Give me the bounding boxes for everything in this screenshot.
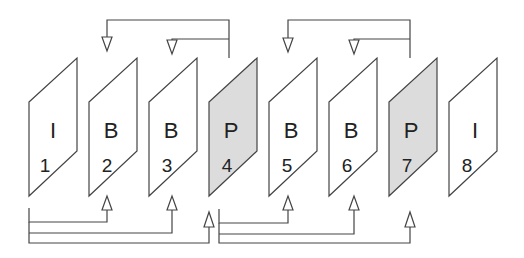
frame-type-label: I [472, 118, 478, 143]
ref-line-4-to-5 [219, 209, 288, 223]
ref-line-1-to-2 [29, 208, 107, 222]
frame-type-label: B [284, 118, 299, 143]
arrowhead-up-icon [102, 196, 112, 210]
arrowhead-down-icon [102, 37, 112, 51]
frame-number-label: 3 [162, 155, 173, 176]
arrowhead-up-icon [349, 196, 359, 210]
frame-4: P 4 [209, 58, 257, 196]
arrowhead-down-icon [349, 40, 359, 54]
frame-type-label: B [104, 118, 119, 143]
frame-number-label: 7 [402, 155, 413, 176]
frame-number-label: 4 [222, 155, 233, 176]
ref-line-4-to-6 [219, 210, 354, 234]
ref-line-4-to-7 [219, 223, 410, 243]
frame-number-label: 8 [462, 155, 473, 176]
arrowhead-up-icon [167, 196, 177, 210]
frame-7: P 7 [389, 58, 437, 196]
arrowhead-down-icon [283, 38, 293, 52]
frame-type-label: I [50, 118, 56, 143]
ref-line-4-to-3 [172, 39, 229, 40]
top-arrows-group-1 [102, 20, 229, 58]
frame-number-label: 6 [342, 155, 353, 176]
frame-6: B 6 [329, 58, 377, 196]
frame-type-label: P [404, 118, 419, 143]
frame-8: I 8 [449, 58, 497, 196]
ref-line-7-to-6 [354, 39, 410, 40]
frame-5: B 5 [269, 58, 317, 196]
frame-1: I 1 [29, 58, 77, 196]
arrowhead-up-icon [283, 196, 293, 210]
frame-type-label: B [344, 118, 359, 143]
bottom-arrows-group-2 [219, 196, 415, 243]
arrowhead-up-icon [204, 212, 214, 227]
frame-number-label: 5 [282, 155, 293, 176]
arrowhead-down-icon [167, 40, 177, 54]
arrowhead-up-icon [405, 212, 415, 227]
bottom-arrows-group-1 [29, 196, 214, 243]
frame-type-label: P [224, 118, 239, 143]
frame-2: B 2 [89, 58, 137, 196]
frame-number-label: 1 [40, 155, 51, 176]
frame-number-label: 2 [102, 155, 113, 176]
frame-3: B 3 [149, 58, 197, 196]
top-arrows-group-2 [283, 20, 410, 58]
gop-frame-diagram: I 1 B 2 B 3 P 4 B 5 B 6 P 7 I 8 [0, 0, 524, 258]
frame-type-label: B [164, 118, 179, 143]
